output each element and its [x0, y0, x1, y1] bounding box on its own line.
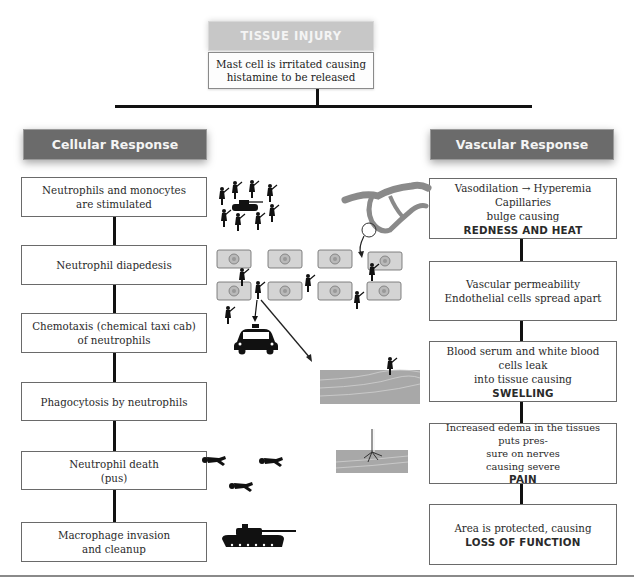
- tank-icon: [222, 524, 296, 547]
- bottom-rule: [0, 575, 634, 577]
- nerve-tissue-icon: [336, 429, 408, 473]
- dead-soldiers-icon: [202, 456, 283, 492]
- endothelial-cells-icon: [217, 250, 402, 324]
- capillary-icon: [345, 185, 428, 258]
- soldiers-tank-icon: [219, 180, 279, 231]
- taxi-icon: [234, 300, 278, 355]
- tissue-layer-icon: [320, 357, 420, 404]
- illustrations-layer: [0, 0, 634, 581]
